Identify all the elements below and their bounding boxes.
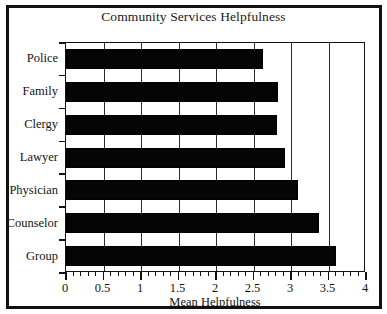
x-axis-minor-tick [283, 272, 284, 276]
x-axis-minor-tick [245, 272, 246, 276]
x-axis-minor-tick [223, 272, 224, 276]
bar-row [66, 109, 364, 142]
y-axis-label-clergy: Clergy [0, 117, 58, 132]
x-axis-tick-label: 3 [287, 281, 293, 296]
x-axis-tick-label: 3.5 [320, 281, 336, 296]
x-axis-minor-tick [193, 272, 194, 276]
y-axis-label-lawyer: Lawyer [0, 150, 58, 165]
x-axis-minor-tick [148, 272, 149, 276]
x-axis-minor-tick [80, 272, 81, 276]
y-axis-label-physician: Physician [0, 182, 58, 197]
bar-row [66, 240, 364, 273]
x-axis-minor-tick [125, 272, 126, 276]
x-axis-tick-label: 2.5 [245, 281, 261, 296]
x-axis-minor-tick [320, 272, 321, 276]
x-axis-tick-label: 1.5 [170, 281, 186, 296]
x-axis-major-tick [65, 272, 67, 280]
x-axis-major-tick [178, 272, 180, 280]
bar-row [66, 142, 364, 175]
y-axis-label-counselor: Counselor [0, 215, 58, 230]
x-axis-minor-tick [230, 272, 231, 276]
bar-row [66, 207, 364, 240]
x-axis-minor-tick [110, 272, 111, 276]
bar-counselor [66, 213, 319, 233]
x-axis-minor-tick [133, 272, 134, 276]
x-axis-major-tick [365, 272, 367, 280]
x-axis-minor-tick [170, 272, 171, 276]
bar-family [66, 82, 278, 102]
x-axis-minor-tick [73, 272, 74, 276]
x-axis-minor-tick [88, 272, 89, 276]
x-axis-tick-label: 1 [137, 281, 143, 296]
x-axis-minor-tick [313, 272, 314, 276]
bar-row [66, 174, 364, 207]
x-axis-tick-label: 4 [362, 281, 368, 296]
y-axis-label-police: Police [0, 51, 58, 66]
bar-group [66, 246, 336, 266]
x-axis-major-tick [290, 272, 292, 280]
x-axis-minor-tick [335, 272, 336, 276]
x-axis-minor-tick [305, 272, 306, 276]
x-axis-minor-tick [95, 272, 96, 276]
x-axis-minor-tick [200, 272, 201, 276]
x-axis-minor-tick [343, 272, 344, 276]
x-axis-minor-tick [268, 272, 269, 276]
x-axis-major-tick [253, 272, 255, 280]
y-axis-labels: PoliceFamilyClergyLawyerPhysicianCounsel… [0, 42, 58, 272]
x-axis-tick-label: 0.5 [95, 281, 111, 296]
bar-clergy [66, 115, 277, 135]
x-axis-major-tick [140, 272, 142, 280]
x-axis-minor-tick [118, 272, 119, 276]
x-axis-minor-tick [238, 272, 239, 276]
x-axis-minor-tick [350, 272, 351, 276]
x-axis-minor-tick [260, 272, 261, 276]
bar-police [66, 49, 263, 69]
chart-figure: Community Services Helpfulness PoliceFam… [0, 0, 387, 314]
chart-title: Community Services Helpfulness [0, 9, 387, 25]
x-axis-minor-tick [155, 272, 156, 276]
x-axis-minor-tick [298, 272, 299, 276]
x-axis-major-tick [328, 272, 330, 280]
plot-area [65, 42, 365, 272]
x-axis-major-tick [103, 272, 105, 280]
x-axis-minor-tick [275, 272, 276, 276]
bar-row [66, 43, 364, 76]
x-axis-title: Mean Helpfulness [65, 295, 365, 310]
y-axis-label-family: Family [0, 84, 58, 99]
bar-series [66, 43, 364, 271]
x-axis-minor-tick [208, 272, 209, 276]
x-axis-tick-label: 0 [62, 281, 68, 296]
x-axis-tick-label: 2 [212, 281, 218, 296]
x-axis-minor-tick [163, 272, 164, 276]
bar-physician [66, 180, 298, 200]
x-axis-major-tick [215, 272, 217, 280]
bar-row [66, 76, 364, 109]
y-axis-label-group: Group [0, 248, 58, 263]
x-axis-minor-tick [358, 272, 359, 276]
x-axis-minor-tick [185, 272, 186, 276]
bar-lawyer [66, 148, 285, 168]
